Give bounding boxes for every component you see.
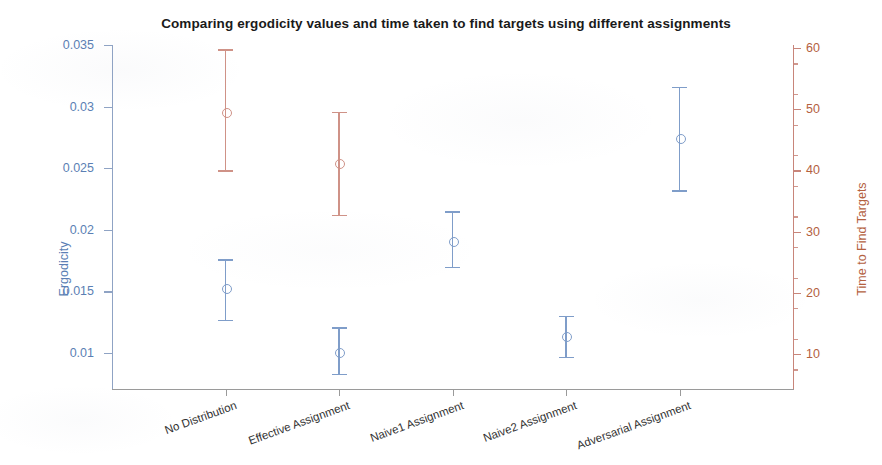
right-axis-title: Time to Find Targets [855, 139, 869, 339]
left-axis-line [112, 45, 113, 390]
right-tick-label: 40 [806, 163, 820, 177]
right-minor-tick-mark [793, 125, 798, 126]
x-tick-mark [226, 389, 227, 396]
right-tick-label: 30 [806, 225, 820, 239]
x-tick-mark [339, 389, 340, 396]
right-tick-mark [793, 109, 801, 110]
left-tick-mark [104, 353, 112, 354]
data-point-marker [222, 284, 232, 294]
error-bar-cap-upper [332, 112, 347, 113]
x-tick-mark [680, 389, 681, 396]
error-bar-cap-upper [445, 211, 460, 212]
left-tick-mark [104, 230, 112, 231]
left-tick-label: 0.035 [63, 38, 94, 52]
right-minor-tick-mark [793, 216, 798, 217]
error-bar-point [670, 87, 690, 192]
right-tick-label: 50 [806, 102, 820, 116]
error-bar-cap-upper [672, 87, 687, 88]
right-tick-label: 10 [806, 347, 820, 361]
data-point-marker [449, 237, 459, 247]
error-bar-cap-lower [672, 190, 687, 191]
right-minor-tick-mark [793, 94, 798, 95]
chart-title: Comparing ergodicity values and time tak… [116, 16, 776, 31]
data-point-marker [335, 159, 345, 169]
error-bar-cap-lower [332, 374, 347, 375]
error-bar-cap-upper [218, 259, 233, 260]
error-bar-cap-upper [218, 49, 233, 50]
right-tick-label: 20 [806, 286, 820, 300]
right-minor-tick-mark [793, 278, 798, 279]
data-point-marker [335, 348, 345, 358]
left-tick-label: 0.025 [63, 161, 94, 175]
error-bar-point [329, 112, 349, 217]
right-minor-tick-mark [793, 247, 798, 248]
left-tick-mark [104, 107, 112, 108]
right-minor-tick-mark [793, 155, 798, 156]
error-bar-point [216, 49, 236, 171]
error-bar-cap-lower [332, 215, 347, 216]
right-minor-tick-mark [793, 186, 798, 187]
x-axis-category-label: Adversarial Assignment [575, 399, 692, 451]
figure-canvas: Comparing ergodicity values and time tak… [0, 0, 882, 465]
left-tick-mark [104, 168, 112, 169]
right-minor-tick-mark [793, 63, 798, 64]
right-tick-label: 60 [806, 41, 820, 55]
error-bar-point [216, 259, 236, 321]
left-tick-label: 0.015 [63, 284, 94, 298]
error-bar-cap-lower [445, 267, 460, 268]
error-bar-cap-lower [218, 320, 233, 321]
error-bar-cap-upper [559, 316, 574, 317]
error-bar-point [556, 316, 576, 358]
data-point-marker [222, 108, 232, 118]
left-axis-title: Ergodicity [57, 199, 71, 339]
error-bar-cap-lower [559, 357, 574, 358]
x-tick-mark [453, 389, 454, 396]
right-tick-mark [793, 293, 801, 294]
right-tick-mark [793, 170, 801, 171]
right-tick-mark [793, 232, 801, 233]
x-tick-mark [566, 389, 567, 396]
left-tick-mark [104, 45, 112, 46]
x-axis-category-label: Effective Assignment [247, 399, 351, 447]
right-minor-tick-mark [793, 339, 798, 340]
x-axis-category-label: No Distribution [163, 399, 238, 436]
data-point-marker [562, 332, 572, 342]
left-tick-label: 0.01 [70, 346, 94, 360]
data-point-marker [676, 134, 686, 144]
right-tick-mark [793, 48, 801, 49]
left-tick-label: 0.02 [70, 223, 94, 237]
error-bar-point [329, 327, 349, 375]
right-minor-tick-mark [793, 369, 798, 370]
error-bar-cap-upper [332, 327, 347, 328]
error-bar-cap-lower [218, 170, 233, 171]
left-tick-label: 0.03 [70, 100, 94, 114]
right-minor-tick-mark [793, 308, 798, 309]
right-tick-mark [793, 354, 801, 355]
x-axis-category-label: Naive2 Assignment [481, 399, 578, 444]
x-axis-category-label: Naive1 Assignment [368, 399, 465, 444]
left-tick-mark [104, 291, 112, 292]
error-bar-point [443, 211, 463, 268]
